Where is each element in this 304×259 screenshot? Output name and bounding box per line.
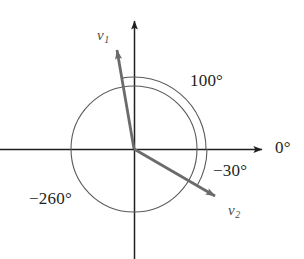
vector-label-v2-base: v: [228, 202, 235, 218]
angle-label-100-degrees: 100°: [190, 72, 223, 89]
vector-label-v1-subscript: 1: [104, 34, 109, 45]
diagram-canvas: [0, 0, 304, 259]
angle-diagram-figure: v1 v2 100° −30° −260° 0°: [0, 0, 304, 259]
vector-label-v2-subscript: 2: [235, 209, 240, 220]
vector-label-v2: v2: [228, 203, 240, 220]
arc-negative-30-degrees: [197, 149, 207, 186]
vector-label-v1: v1: [97, 28, 109, 45]
angle-label-negative-30-degrees: −30°: [213, 162, 247, 179]
vector-v1: [117, 50, 134, 149]
axis-label-zero-degrees: 0°: [275, 139, 291, 156]
angle-label-negative-260-degrees: −260°: [29, 190, 72, 207]
vector-label-v1-base: v: [97, 27, 104, 43]
